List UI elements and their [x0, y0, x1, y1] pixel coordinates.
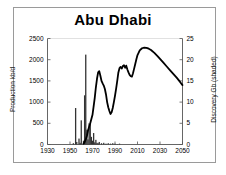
discovery-bar — [103, 143, 104, 145]
discovery-bars — [73, 55, 120, 145]
production-line — [84, 48, 183, 144]
discovery-bar — [79, 143, 80, 145]
discovery-bar — [78, 139, 79, 145]
y-tick-label-right: 20 — [187, 56, 213, 63]
discovery-bar — [112, 143, 113, 144]
discovery-bar — [76, 142, 77, 145]
chart-figure: Abu Dhabi Production kb/d Discovery Gb (… — [0, 0, 226, 175]
discovery-bar — [81, 120, 82, 144]
discovery-bar — [92, 141, 93, 145]
discovery-bar — [85, 55, 86, 145]
discovery-bar — [114, 144, 115, 145]
discovery-bar — [99, 142, 100, 145]
discovery-bar — [87, 139, 88, 144]
y-tick-label-right: 25 — [187, 35, 213, 42]
discovery-bar — [108, 143, 109, 144]
discovery-bar — [95, 140, 96, 145]
discovery-bar — [73, 143, 74, 144]
y-tick-label-left: 1500 — [18, 77, 44, 84]
y-tick-label-right: 5 — [187, 119, 213, 126]
y-tick-label-right: 10 — [187, 98, 213, 105]
y-tick-label-left: 500 — [18, 119, 44, 126]
discovery-bar — [93, 133, 94, 144]
discovery-bar — [97, 143, 98, 144]
y-tick-label-left: 2500 — [18, 35, 44, 42]
production-curve — [84, 48, 183, 144]
discovery-bar — [110, 144, 111, 145]
discovery-bar — [84, 95, 85, 144]
discovery-bar — [96, 143, 97, 145]
discovery-bar — [91, 137, 92, 145]
discovery-bar — [101, 143, 102, 144]
discovery-bar — [105, 144, 106, 145]
discovery-bar — [119, 144, 120, 145]
discovery-bar — [94, 142, 95, 144]
y-tick-label-left: 1000 — [18, 98, 44, 105]
discovery-bar — [75, 108, 76, 144]
y-tick-label-right: 15 — [187, 77, 213, 84]
y-tick-label-left: 2000 — [18, 56, 44, 63]
x-tick-label: 2050 — [169, 147, 197, 154]
